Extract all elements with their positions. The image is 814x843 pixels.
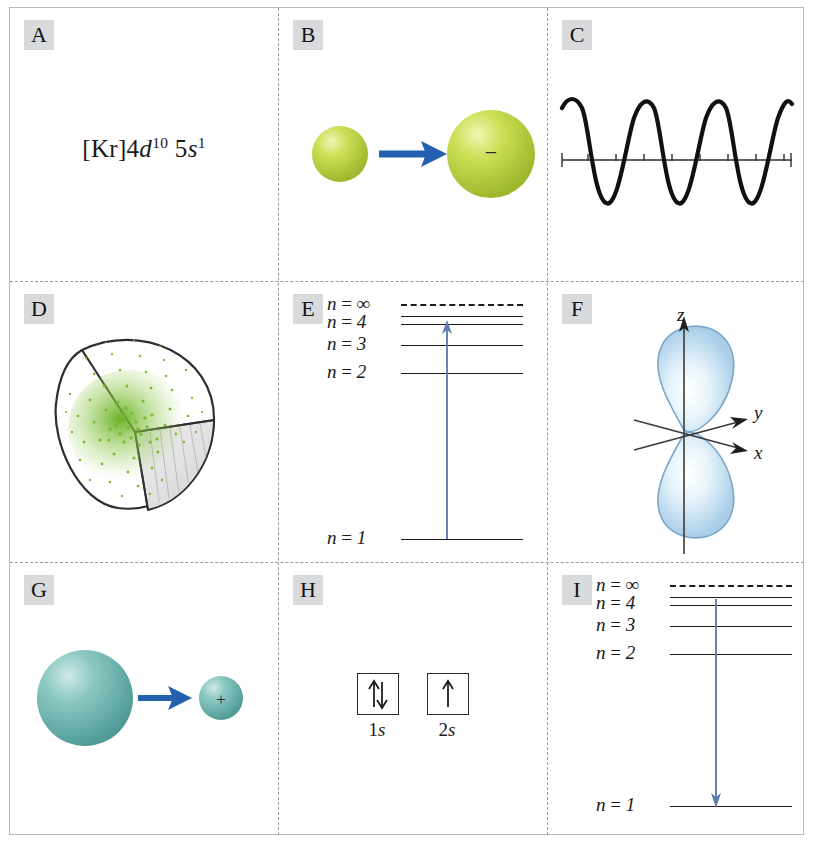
neutral-atom-sphere bbox=[312, 126, 368, 182]
neutral-atom-sphere-g bbox=[37, 650, 133, 746]
panel-a: A [Kr]4d10 5s1 bbox=[10, 8, 278, 281]
spin-arrows-2s bbox=[428, 674, 468, 714]
panel-e: E n = ∞ n = 4 n = 3 n = 2 n = 1 bbox=[279, 282, 547, 562]
orbital-box-1s bbox=[357, 673, 399, 715]
p-orbital-lobe-lower bbox=[658, 432, 734, 538]
transition-arrow-e bbox=[279, 282, 547, 562]
spin-arrows-1s bbox=[358, 674, 398, 714]
wave-axis bbox=[562, 153, 792, 167]
config-core: [Kr] bbox=[82, 135, 126, 162]
reaction-arrow-b bbox=[379, 141, 447, 167]
config-term-2-electrons: 1 bbox=[198, 134, 206, 151]
config-term-2-n: 5 bbox=[175, 135, 188, 162]
anion-formation-graphic: − bbox=[279, 8, 547, 281]
panel-label-a: A bbox=[24, 20, 54, 50]
orbital-label-1s: 1s bbox=[357, 719, 397, 741]
p-orbital-graphic bbox=[548, 282, 804, 562]
panel-b: B − bbox=[279, 8, 547, 281]
config-term-1-orbital: d bbox=[139, 135, 152, 162]
panel-d: D bbox=[10, 282, 278, 562]
reaction-arrow-g bbox=[138, 686, 192, 710]
wave-curve bbox=[562, 99, 792, 203]
panel-h: H 1s 2s bbox=[279, 563, 547, 835]
config-term-1-electrons: 10 bbox=[152, 134, 168, 151]
wave-graphic bbox=[548, 8, 804, 281]
orbital-label-2s: 2s bbox=[427, 719, 467, 741]
orbital-label-1s-type: s bbox=[378, 719, 385, 740]
panel-label-h: H bbox=[293, 575, 323, 605]
axis-label-x: x bbox=[754, 442, 762, 464]
orbital-label-2s-n: 2 bbox=[439, 719, 449, 740]
panel-g: G + bbox=[10, 563, 278, 835]
orbital-label-1s-n: 1 bbox=[369, 719, 379, 740]
p-orbital-lobe-upper bbox=[658, 326, 734, 432]
electron-configuration-formula: [Kr]4d10 5s1 bbox=[10, 134, 278, 163]
axis-label-z: z bbox=[677, 304, 684, 326]
anion-charge-label: − bbox=[485, 140, 497, 165]
config-term-1-n: 4 bbox=[127, 135, 140, 162]
orbital-label-2s-type: s bbox=[448, 719, 455, 740]
config-term-2-orbital: s bbox=[188, 135, 198, 162]
cation-charge-label: + bbox=[216, 690, 226, 709]
figure-root: A [Kr]4d10 5s1 B − C bbox=[0, 0, 814, 843]
panel-i: I n = ∞ n = 4 n = 3 n = 2 n = 1 bbox=[548, 563, 804, 835]
orbital-box-2s bbox=[427, 673, 469, 715]
panel-c: C bbox=[548, 8, 804, 281]
electron-density-cutaway-graphic bbox=[10, 282, 278, 562]
panel-f: F bbox=[548, 282, 804, 562]
cation-formation-graphic: + bbox=[10, 563, 278, 835]
axis-label-y: y bbox=[754, 402, 762, 424]
transition-arrow-i bbox=[548, 563, 804, 835]
